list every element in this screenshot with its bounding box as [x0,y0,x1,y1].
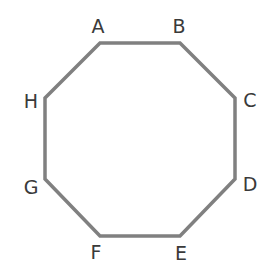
vertex-label-g: G [24,176,39,198]
octagon-shape [45,43,235,236]
octagon-diagram: A B C D E F G H [0,0,270,264]
vertex-label-h: H [24,90,38,112]
vertex-label-c: C [243,89,256,111]
vertex-label-a: A [92,15,105,37]
vertex-labels: A B C D E F G H [24,15,258,264]
vertex-label-f: F [91,241,102,263]
vertex-label-d: D [243,173,258,195]
vertex-label-e: E [175,242,187,264]
vertex-label-b: B [172,15,185,37]
